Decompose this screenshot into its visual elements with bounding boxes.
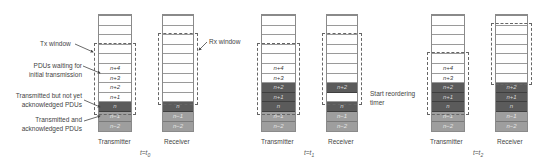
annotation-arrows: [0, 0, 547, 167]
tx-window-arrow: [75, 44, 93, 52]
transmitted-not-acked-arrow: [84, 100, 100, 107]
rx-window-arrow: [199, 42, 207, 50]
pdus-waiting-arrow: [83, 66, 100, 73]
transmitted-acked-arrow: [84, 116, 100, 121]
